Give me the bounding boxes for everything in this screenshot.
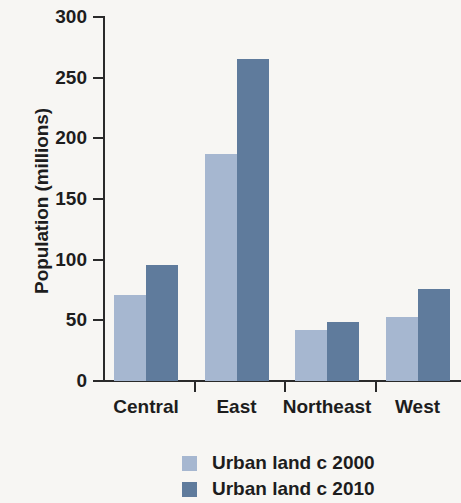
y-axis-tick — [93, 77, 104, 79]
legend-label: Urban land c 2000 — [212, 452, 375, 474]
y-axis-tick — [93, 380, 104, 382]
y-axis-tick-label: 300 — [7, 6, 87, 28]
x-axis-label-northeast: Northeast — [283, 396, 372, 418]
legend-item: Urban land c 2000 — [182, 450, 375, 476]
legend-item: Urban land c 2010 — [182, 476, 375, 502]
bar-central-2010 — [146, 265, 178, 381]
y-axis-tick — [93, 259, 104, 261]
x-axis-tick — [375, 381, 377, 392]
y-axis-tick-label: 50 — [7, 309, 87, 331]
bar-chart: Population (millions) 050100150200250300… — [0, 0, 461, 503]
x-axis-label-east: East — [216, 396, 256, 418]
legend-label: Urban land c 2010 — [212, 478, 375, 500]
y-axis-tick — [93, 319, 104, 321]
bar-central-2000 — [114, 295, 146, 381]
y-axis-tick-label: 200 — [7, 127, 87, 149]
x-axis-label-west: West — [395, 396, 440, 418]
bar-northeast-2000 — [295, 330, 327, 381]
y-axis-tick-label: 150 — [7, 188, 87, 210]
bar-west-2010 — [418, 289, 450, 381]
legend-swatch-icon — [182, 456, 197, 471]
chart-legend: Urban land c 2000Urban land c 2010 — [182, 450, 375, 502]
y-axis-tick — [93, 137, 104, 139]
y-axis-tick — [93, 198, 104, 200]
y-axis-tick-label: 250 — [7, 67, 87, 89]
x-axis-tick — [194, 381, 196, 392]
x-axis-label-central: Central — [113, 396, 178, 418]
y-axis-tick — [93, 16, 104, 18]
legend-swatch-icon — [182, 482, 197, 497]
bar-east-2000 — [205, 154, 237, 381]
y-axis-tick-label: 0 — [7, 370, 87, 392]
bar-west-2000 — [386, 317, 418, 381]
y-axis-tick-label: 100 — [7, 249, 87, 271]
bar-east-2010 — [237, 59, 269, 381]
bar-northeast-2010 — [327, 322, 359, 381]
x-axis-tick — [284, 381, 286, 392]
plot-area — [104, 17, 461, 381]
